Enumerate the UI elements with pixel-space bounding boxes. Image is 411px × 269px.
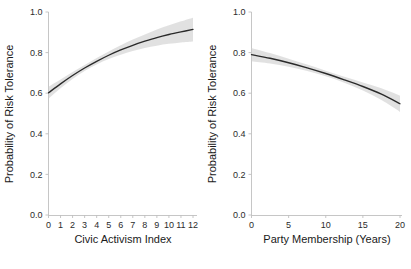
x-tick-label: 0 (46, 220, 51, 230)
figure-two-panel-marginal-effects: 0.00.20.40.60.81.0 0123456789101112 Civi… (0, 0, 411, 269)
panel-party-membership: 0.00.20.40.60.81.0 05101520 Party Member… (205, 0, 411, 269)
y-tick-label: 0.6 (30, 88, 43, 98)
right-y-axis-title: Probability of Risk Tolerance (206, 45, 218, 184)
left-confidence-band (49, 18, 194, 99)
right-x-tick-group: 05101520 (249, 215, 405, 230)
right-confidence-band (252, 48, 401, 112)
panel-left-plot: 0.00.20.40.60.81.0 0123456789101112 Civi… (0, 0, 205, 269)
left-y-tick-group: 0.00.20.40.60.81.0 (30, 7, 49, 220)
right-x-axis-title: Party Membership (Years) (263, 233, 390, 245)
y-tick-label: 1.0 (233, 7, 246, 17)
left-x-tick-group: 0123456789101112 (46, 215, 198, 230)
y-tick-label: 0.8 (233, 48, 246, 58)
y-tick-label: 0.0 (233, 210, 246, 220)
right-y-tick-group: 0.00.20.40.60.81.0 (233, 7, 252, 220)
y-tick-label: 0.2 (30, 170, 43, 180)
x-tick-label: 3 (82, 220, 87, 230)
x-tick-label: 7 (130, 220, 135, 230)
left-x-axis-title: Civic Activism Index (74, 233, 172, 245)
footer-text-fragment (262, 258, 410, 266)
panel-right-plot: 0.00.20.40.60.81.0 05101520 Party Member… (205, 0, 411, 269)
x-tick-label: 20 (395, 220, 405, 230)
x-tick-label: 2 (70, 220, 75, 230)
x-tick-label: 0 (249, 220, 254, 230)
left-y-axis-title: Probability of Risk Tolerance (3, 45, 15, 184)
y-tick-label: 0.4 (30, 129, 43, 139)
y-tick-label: 0.6 (233, 88, 246, 98)
right-axes (252, 12, 403, 216)
x-tick-label: 12 (188, 220, 198, 230)
x-tick-label: 9 (154, 220, 159, 230)
y-tick-label: 0.4 (233, 129, 246, 139)
x-tick-label: 5 (286, 220, 291, 230)
y-tick-label: 0.0 (30, 210, 43, 220)
y-tick-label: 0.2 (233, 170, 246, 180)
x-tick-label: 10 (164, 220, 174, 230)
x-tick-label: 1 (58, 220, 63, 230)
y-tick-label: 0.8 (30, 48, 43, 58)
x-tick-label: 4 (94, 220, 99, 230)
x-tick-label: 15 (358, 220, 368, 230)
y-tick-label: 1.0 (30, 7, 43, 17)
x-tick-label: 11 (176, 220, 185, 230)
x-tick-label: 5 (106, 220, 111, 230)
x-tick-label: 6 (118, 220, 123, 230)
x-tick-label: 8 (142, 220, 147, 230)
x-tick-label: 10 (321, 220, 331, 230)
panel-civic-activism: 0.00.20.40.60.81.0 0123456789101112 Civi… (0, 0, 205, 269)
